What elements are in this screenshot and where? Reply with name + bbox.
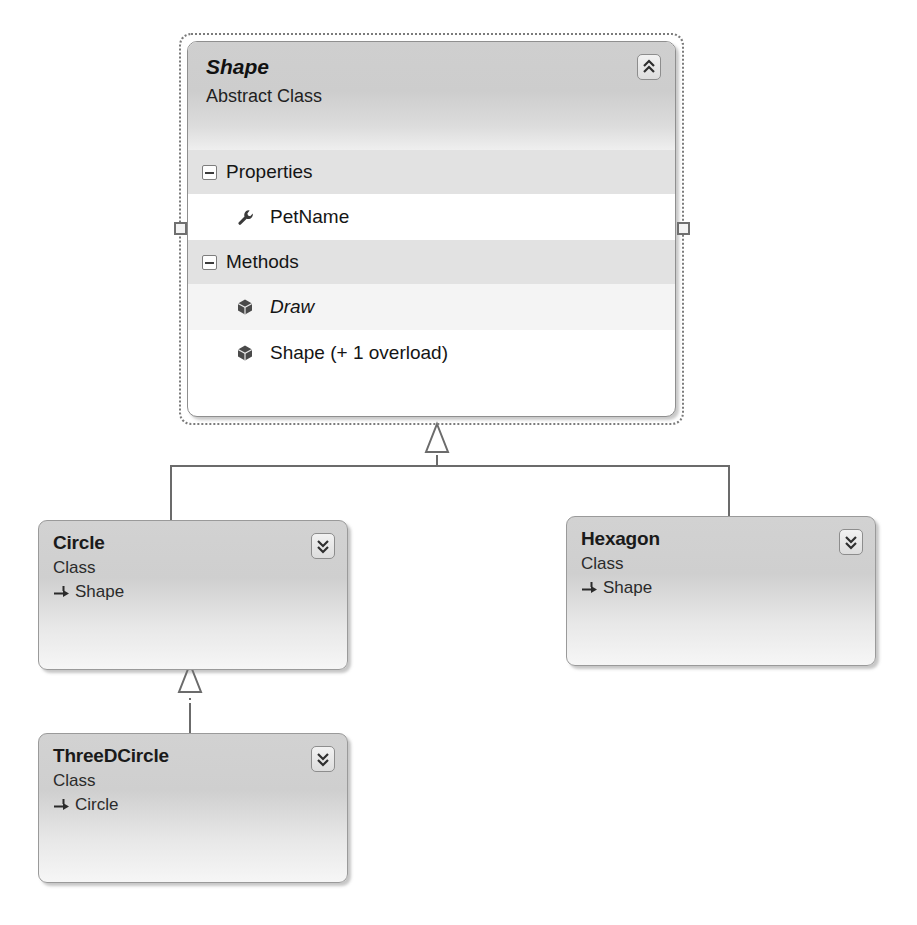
connector-shape-subclasses (170, 424, 730, 522)
class-kind-circle: Class (53, 556, 333, 579)
class-base-threedcircle: Circle (53, 793, 333, 816)
member-group-label: Methods (226, 251, 299, 273)
class-node-shape[interactable]: Shape Abstract Class Properties (179, 33, 684, 425)
inherits-arrow-icon (53, 797, 70, 812)
member-group-methods[interactable]: Methods (188, 240, 675, 284)
chevron-double-up-icon[interactable] (637, 54, 661, 80)
class-header-shape: Shape Abstract Class (188, 42, 675, 150)
member-name: PetName (270, 206, 349, 228)
class-title-block: Circle Class Shape (39, 521, 347, 603)
class-name-circle: Circle (53, 532, 333, 554)
chevron-double-down-icon[interactable] (839, 529, 863, 555)
selection-handle-right[interactable] (677, 222, 690, 235)
member-row-draw[interactable]: Draw (188, 284, 675, 330)
class-base-hexagon: Shape (581, 576, 861, 599)
class-diagram-canvas: Shape Abstract Class Properties (0, 0, 917, 925)
wrench-glyph (236, 208, 255, 227)
class-node-circle[interactable]: Circle Class Shape (38, 520, 348, 670)
inherits-arrow-icon (581, 580, 598, 595)
chevron-double-down-glyph (844, 534, 858, 550)
chevron-double-down-icon[interactable] (311, 746, 335, 772)
minus-box-icon[interactable] (202, 165, 217, 180)
class-node-shape-body[interactable]: Shape Abstract Class Properties (187, 41, 676, 417)
class-kind-threedcircle: Class (53, 769, 333, 792)
cube-icon (234, 296, 256, 318)
member-group-properties[interactable]: Properties (188, 150, 675, 194)
chevron-double-down-glyph (316, 538, 330, 554)
class-name-threedcircle: ThreeDCircle (53, 745, 333, 767)
class-name-shape: Shape (206, 54, 661, 80)
class-node-threedcircle[interactable]: ThreeDCircle Class Circle (38, 733, 348, 883)
member-name: Shape (+ 1 overload) (270, 342, 448, 364)
chevron-double-down-glyph (316, 751, 330, 767)
member-row-shape-ctor[interactable]: Shape (+ 1 overload) (188, 330, 675, 376)
class-title-block: Hexagon Class Shape (567, 517, 875, 599)
class-kind-shape: Abstract Class (206, 83, 661, 109)
chevron-double-down-icon[interactable] (311, 533, 335, 559)
minus-box-icon[interactable] (202, 255, 217, 270)
class-node-hexagon[interactable]: Hexagon Class Shape (566, 516, 876, 666)
class-kind-hexagon: Class (581, 552, 861, 575)
class-base-name: Shape (75, 580, 124, 603)
member-row-petname[interactable]: PetName (188, 194, 675, 240)
connector-threedcircle-circle (179, 664, 201, 735)
cube-glyph (236, 344, 254, 362)
cube-glyph (236, 298, 254, 316)
class-title-block: ThreeDCircle Class Circle (39, 734, 347, 816)
class-base-circle: Shape (53, 580, 333, 603)
selection-handle-left[interactable] (174, 222, 187, 235)
cube-icon (234, 342, 256, 364)
member-name: Draw (270, 296, 314, 318)
class-base-name: Circle (75, 793, 118, 816)
member-group-label: Properties (226, 161, 313, 183)
wrench-icon (234, 206, 256, 228)
class-name-hexagon: Hexagon (581, 528, 861, 550)
inherits-arrow-icon (53, 584, 70, 599)
class-base-name: Shape (603, 576, 652, 599)
chevron-double-up-glyph (642, 59, 656, 75)
